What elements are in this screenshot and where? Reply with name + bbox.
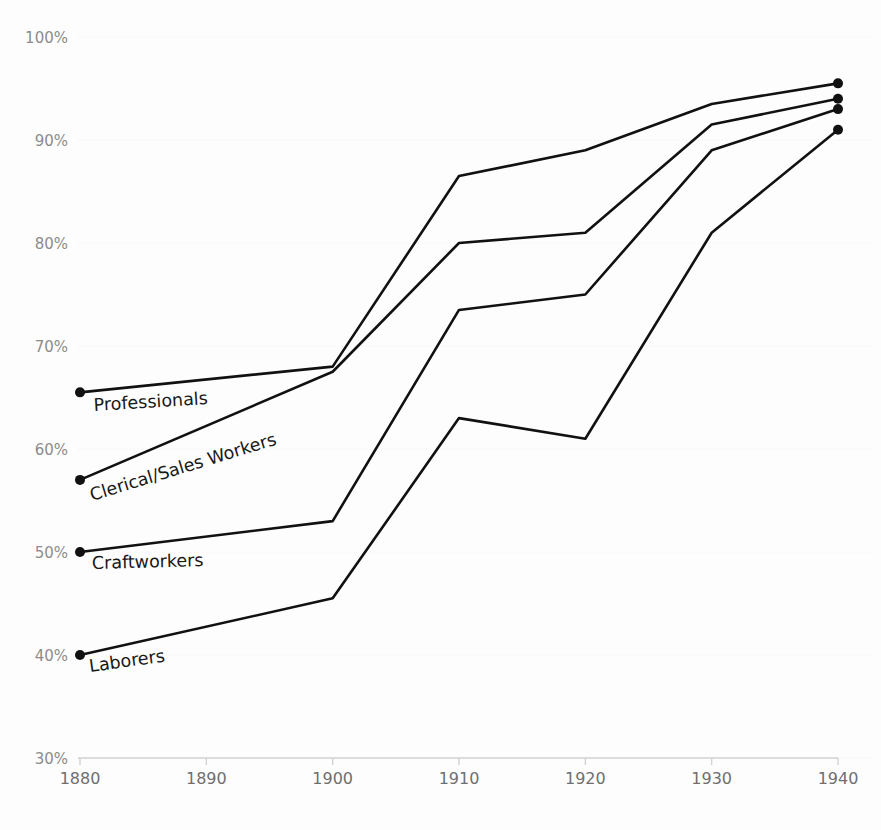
series-endpoint-dot [833,94,843,104]
x-tick-label: 1930 [691,769,732,788]
series-endpoint-dot [75,387,85,397]
series-line [80,99,838,480]
series-endpoint-dot [833,78,843,88]
y-tick-label: 60% [35,441,68,459]
series-line [80,83,838,392]
line-chart: 100%90%80%70%60%50%40%30% 18801890190019… [0,0,881,830]
series-label: Professionals [93,388,208,415]
series-endpoint-dots [75,78,843,660]
x-tick-label: 1890 [186,769,227,788]
y-tick-label: 90% [35,132,68,150]
series-endpoint-dot [75,650,85,660]
y-tick-label: 50% [35,544,68,562]
series-endpoint-dot [833,125,843,135]
x-axis-tick-labels: 1880189019001910192019301940 [60,769,859,788]
series-endpoint-dot [75,475,85,485]
x-axis [78,758,838,765]
chart-canvas: 100%90%80%70%60%50%40%30% 18801890190019… [0,0,881,830]
x-tick-label: 1880 [60,769,101,788]
series-endpoint-dot [833,104,843,114]
y-axis-tick-labels: 100%90%80%70%60%50%40%30% [25,29,68,768]
y-tick-label: 100% [25,29,68,47]
series-label: Clerical/Sales Workers [87,429,278,505]
series-label: Craftworkers [92,550,204,573]
y-tick-label: 80% [35,235,68,253]
x-tick-label: 1910 [439,769,480,788]
y-tick-label: 30% [35,750,68,768]
series-endpoint-dot [75,547,85,557]
x-tick-label: 1940 [818,769,859,788]
y-tick-label: 70% [35,338,68,356]
y-tick-label: 40% [35,647,68,665]
x-tick-label: 1920 [565,769,606,788]
x-tick-label: 1900 [312,769,353,788]
